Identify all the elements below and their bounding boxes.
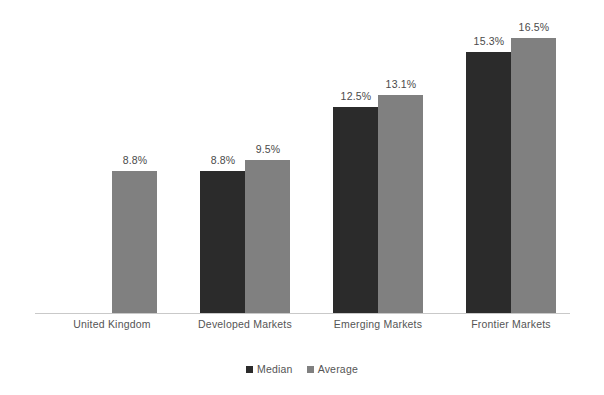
bar-average-united-kingdom xyxy=(112,171,157,313)
legend-swatch-average-icon xyxy=(307,366,314,373)
legend-item-average[interactable]: Average xyxy=(307,363,358,375)
bar-average-emerging-markets xyxy=(378,95,423,313)
bar-chart: 8.8% 8.8% 9.5% 12.5% 13.1% 15.3% 16.5% U… xyxy=(0,0,604,395)
legend-label-average: Average xyxy=(318,363,358,375)
chart-legend: Median Average xyxy=(0,363,604,375)
bar-label-median-frontier-markets: 15.3% xyxy=(459,35,519,47)
bar-label-average-united-kingdom: 8.8% xyxy=(105,154,165,166)
bar-label-median-developed-markets: 8.8% xyxy=(193,154,253,166)
plot-area: 8.8% 8.8% 9.5% 12.5% 13.1% 15.3% 16.5% xyxy=(35,20,570,313)
bar-group-emerging-markets: 12.5% 13.1% xyxy=(333,20,423,313)
bar-median-developed-markets xyxy=(200,171,245,313)
bar-median-frontier-markets xyxy=(466,52,511,313)
bar-group-frontier-markets: 15.3% 16.5% xyxy=(466,20,556,313)
category-label-frontier-markets: Frontier Markets xyxy=(431,318,591,330)
legend-label-median: Median xyxy=(257,363,293,375)
bar-label-median-emerging-markets: 12.5% xyxy=(326,90,386,102)
legend-swatch-median-icon xyxy=(246,366,253,373)
bar-label-average-developed-markets: 9.5% xyxy=(238,143,298,155)
bar-median-emerging-markets xyxy=(333,107,378,313)
x-axis-line xyxy=(35,313,570,314)
x-axis-category-labels: United Kingdom Developed Markets Emergin… xyxy=(35,318,570,342)
bar-average-frontier-markets xyxy=(511,38,556,313)
bar-label-average-frontier-markets: 16.5% xyxy=(504,21,564,33)
bar-average-developed-markets xyxy=(245,160,290,313)
bar-label-average-emerging-markets: 13.1% xyxy=(371,78,431,90)
bar-group-developed-markets: 8.8% 9.5% xyxy=(200,20,290,313)
bar-group-united-kingdom: 8.8% xyxy=(67,20,157,313)
legend-item-median[interactable]: Median xyxy=(246,363,293,375)
